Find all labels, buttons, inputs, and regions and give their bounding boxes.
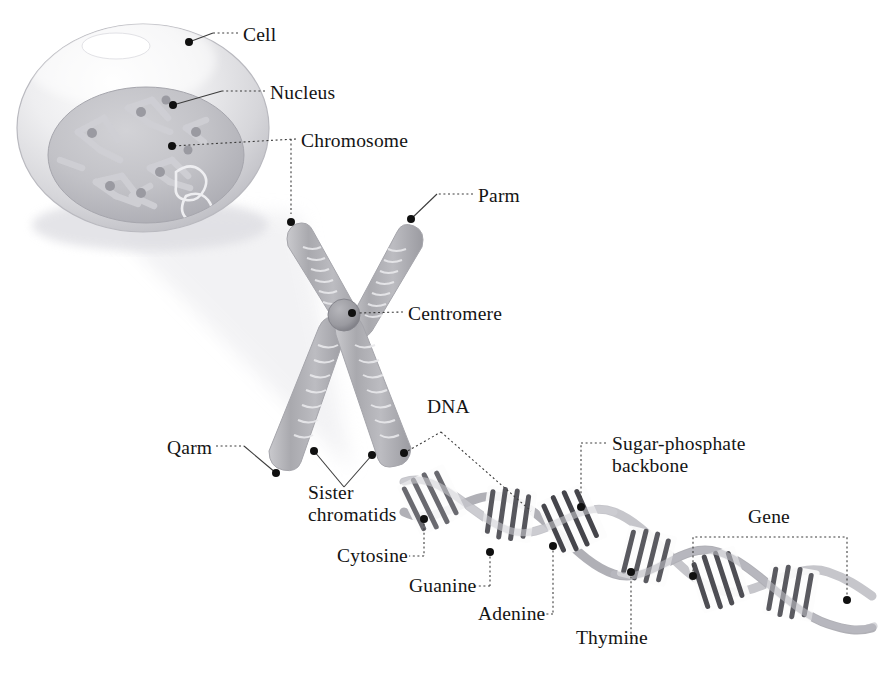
dot-dna (400, 449, 408, 457)
dot-guanine (486, 548, 494, 556)
dot-nucleus (169, 101, 177, 109)
dot-centromere (348, 309, 356, 317)
dot-chromosome-tip (287, 218, 295, 226)
label-parm: Parm (478, 185, 520, 207)
dot-cell (185, 38, 193, 46)
dot-adenine (549, 542, 557, 550)
label-centromere: Centromere (408, 303, 502, 325)
label-guanine: Guanine (409, 575, 476, 597)
label-gene: Gene (748, 506, 790, 528)
dot-cytosine (420, 515, 428, 523)
dot-sugar-phosphate (577, 503, 585, 511)
dot-gene-start (689, 572, 697, 580)
diagram-canvas: Cell Nucleus Chromosome Parm Centromere … (0, 0, 887, 685)
label-cytosine: Cytosine (337, 545, 408, 567)
cell-illustration (17, 14, 269, 251)
dot-sister-chromatid-right (368, 451, 376, 459)
label-cell: Cell (243, 24, 276, 46)
label-chromosome: Chromosome (301, 130, 408, 152)
nucleus-illustration (48, 87, 244, 223)
dot-qarm (272, 469, 280, 477)
label-sugar-phosphate-line2: backbone (612, 455, 688, 477)
label-sister-chromatids-line2: chromatids (308, 504, 397, 526)
base-pair-rungs (396, 463, 820, 622)
label-sugar-phosphate-line1: Sugar-phosphate (612, 433, 746, 455)
dot-gene-end (843, 596, 851, 604)
label-thymine: Thymine (576, 627, 648, 649)
dna-helix-illustration (396, 463, 874, 630)
label-dna: DNA (427, 396, 470, 418)
label-adenine: Adenine (478, 603, 545, 625)
dot-sister-chromatid-left (310, 447, 318, 455)
dot-parm (407, 215, 415, 223)
label-qarm: Qarm (167, 437, 212, 459)
label-sister-chromatids-line1: Sister (308, 482, 354, 504)
label-nucleus: Nucleus (270, 82, 335, 104)
dot-thymine (627, 568, 635, 576)
dot-chromosome-nuclear (168, 142, 176, 150)
